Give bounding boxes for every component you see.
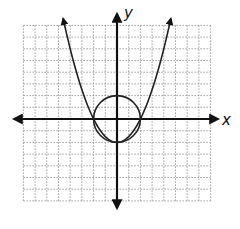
- y-axis-label: y: [123, 4, 134, 22]
- x-axis-label: x: [221, 111, 231, 129]
- coordinate-graph: x y: [0, 0, 240, 229]
